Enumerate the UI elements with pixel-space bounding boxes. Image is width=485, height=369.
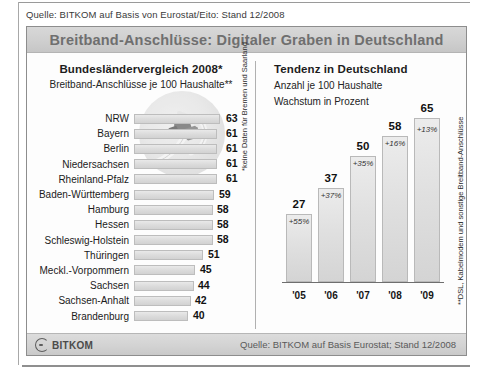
state-label: NRW [27,113,134,124]
panel-bundeslaender: Bundesländervergleich 2008* Breitband-An… [27,53,255,335]
state-bar [134,311,188,321]
state-label: Sachsen-Anhalt [27,295,134,306]
panels-container: Bundesländervergleich 2008* Breitband-An… [27,53,466,335]
state-value: 40 [193,309,205,321]
table-row: Baden-Württemberg 59 [27,187,255,202]
infographic-figure: Breitband-Anschlüsse: Digitaler Graben i… [26,26,467,356]
trend-chart: 27 +55% 37 +37% 50 +35% [282,115,444,305]
state-bar [134,129,217,139]
state-value: 61 [226,172,238,184]
trend-bar [318,188,344,282]
bar-track: 61 [134,129,222,139]
source-line-top: Quelle: BITKOM auf Basis von Eurostat/Ei… [26,9,285,20]
state-bar [134,159,217,169]
state-label: Baden-Württemberg [27,189,134,200]
state-value: 42 [195,294,207,306]
state-bar [134,114,220,124]
trend-bars: 27 +55% 37 +37% 50 +35% [282,118,444,282]
left-panel-footnote: *keine Daten für Bremen und Saarland [240,42,249,171]
state-value: 61 [226,142,238,154]
trend-value: 27 [282,198,316,210]
left-panel-subheading: Breitband-Anschlüsse je 100 Haushalte** [27,79,255,90]
state-bar [134,174,217,184]
bar-track: 59 [134,190,222,200]
table-row: Meckl.-Vorpommern 45 [27,263,255,278]
state-value: 59 [219,188,231,200]
bar-track: 63 [134,114,222,124]
table-row: Hessen 58 [27,217,255,232]
trend-year-label: '09 [412,290,442,301]
state-bar [134,250,203,260]
state-bar [134,144,217,154]
state-bar [134,265,195,275]
trend-year-label: '07 [348,290,378,301]
table-row: Rheinland-Pfalz 61 [27,172,255,187]
trend-bar [350,156,376,282]
state-label: Berlin [27,143,134,154]
trend-year-label: '05 [284,290,314,301]
bitkom-logo: BITKOM [35,338,93,352]
state-bar [134,296,191,306]
state-label: Meckl.-Vorpommern [27,265,134,276]
bitkom-logo-text: BITKOM [52,340,93,351]
state-value: 51 [208,248,220,260]
page-rule-bottom [22,365,470,367]
state-value: 61 [226,157,238,169]
state-bar-rows: NRW 63 Bayern 61 Berlin [27,111,255,324]
bar-track: 61 [134,174,222,184]
state-label: Brandenburg [27,311,134,322]
trend-growth-label: +55% [286,217,312,226]
panel-tendenz: Tendenz in Deutschland Anzahl je 100 Hau… [256,53,468,335]
bar-track: 58 [134,235,222,245]
trend-value: 50 [346,140,380,152]
bar-track: 58 [134,220,222,230]
state-bar [134,205,213,215]
state-label: Niedersachsen [27,159,134,170]
trend-growth-label: +35% [350,159,376,168]
table-row: NRW 63 [27,111,255,126]
state-value: 58 [217,203,229,215]
chart-baseline-axis [282,282,444,283]
state-bar [134,235,213,245]
table-row: Thüringen 51 [27,248,255,263]
state-label: Bayern [27,128,134,139]
right-panel-subheading-1: Anzahl je 100 Haushalte [256,80,468,91]
bar-track: 42 [134,296,222,306]
state-value: 61 [226,127,238,139]
trend-value: 58 [378,120,412,132]
table-row: Hamburg 58 [27,202,255,217]
trend-value: 65 [410,102,444,114]
state-value: 45 [200,263,212,275]
table-row: Sachsen-Anhalt 42 [27,293,255,308]
table-row: Sachsen 44 [27,278,255,293]
trend-bar [382,136,408,282]
trend-growth-label: +16% [382,139,408,148]
bar-track: 40 [134,311,222,321]
state-label: Hamburg [27,204,134,215]
state-label: Sachsen [27,280,134,291]
state-value: 44 [198,279,210,291]
state-value: 63 [226,112,238,124]
state-value: 58 [217,233,229,245]
trend-growth-label: +13% [414,125,440,134]
bar-track: 61 [134,144,222,154]
bar-track: 51 [134,250,222,260]
bar-track: 44 [134,281,222,291]
state-label: Rheinland-Pfalz [27,174,134,185]
state-label: Thüringen [27,250,134,261]
trend-value: 37 [314,172,348,184]
bitkom-swoosh-icon [35,338,49,352]
trend-year-label: '06 [316,290,346,301]
right-panel-footnote: **DSL, Kabelmodem und sonstige Breitband… [456,117,465,305]
figure-footer: BITKOM Quelle: BITKOM auf Basis Eurostat… [27,333,466,355]
trend-year-label: '08 [380,290,410,301]
source-line-bottom: Quelle: BITKOM auf Basis Eurostat; Stand… [240,339,456,350]
state-bar [134,190,214,200]
page-margin-line [18,2,19,365]
bar-track: 58 [134,205,222,215]
left-panel-heading: Bundesländervergleich 2008* [27,63,255,75]
page-rule-top [18,2,470,3]
table-row: Schleswig-Holstein 58 [27,233,255,248]
state-label: Schleswig-Holstein [27,235,134,246]
state-value: 58 [217,218,229,230]
